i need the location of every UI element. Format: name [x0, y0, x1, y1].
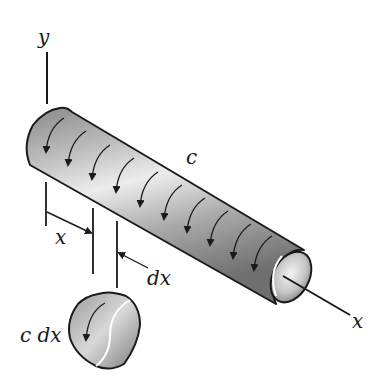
x-dimension-arrow [47, 212, 91, 233]
element-torque-label: c dx [20, 323, 62, 347]
distributed-torque-label: c [186, 145, 197, 169]
element-length-label: dx [147, 266, 171, 290]
torque-diagram: y c x x dx c dx [0, 0, 382, 386]
y-axis-label: y [37, 25, 50, 49]
shaft-element [69, 292, 140, 368]
x-axis-label: x [352, 309, 363, 333]
dx-dimension-arrow [119, 253, 148, 268]
shaft [27, 108, 320, 309]
position-label: x [55, 225, 66, 249]
